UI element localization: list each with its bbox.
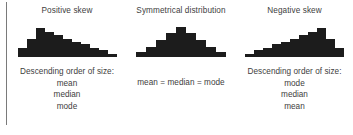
- histogram-bar: [45, 32, 54, 57]
- histogram-bar: [290, 39, 299, 57]
- caption-heading: Descending order of size:: [247, 66, 341, 78]
- panel-symmetrical-distribution: Symmetrical distribution mean = median =…: [126, 0, 236, 135]
- panel-title-negative-skew: Negative skew: [267, 6, 322, 16]
- caption-item-mean: mean: [284, 101, 304, 113]
- panel-positive-skew: Positive skew Descending order of size: …: [8, 0, 126, 135]
- caption-positive-skew: Descending order of size: mean median mo…: [20, 66, 114, 112]
- histogram-bar: [196, 40, 206, 57]
- caption-item-mode: mode: [57, 101, 77, 113]
- histogram-bars: [245, 28, 344, 57]
- panel-title-positive-skew: Positive skew: [42, 6, 93, 16]
- histogram-bar: [90, 48, 99, 57]
- caption-negative-skew: Descending order of size: mode median me…: [247, 66, 341, 112]
- left-border-rule: [6, 2, 7, 125]
- histogram-bar: [36, 28, 45, 57]
- histogram-bars: [18, 28, 117, 57]
- chart-negative-skew: [245, 25, 344, 57]
- histogram-bar: [245, 54, 254, 57]
- histogram-bar: [254, 50, 263, 57]
- caption-item-mean: mean: [57, 78, 77, 90]
- histogram-bar: [108, 54, 117, 57]
- histogram-bar: [156, 40, 166, 57]
- caption-item-median: median: [281, 89, 308, 101]
- histogram-bar: [186, 33, 196, 57]
- chart-symmetrical-distribution: [136, 25, 226, 57]
- statistics-skew-figure: Positive skew Descending order of size: …: [0, 0, 353, 135]
- histogram-bar: [335, 48, 344, 57]
- histogram-bar: [63, 39, 72, 57]
- histogram-bar: [176, 27, 186, 57]
- panel-row: Positive skew Descending order of size: …: [8, 0, 353, 135]
- histogram-bar: [81, 44, 90, 57]
- chart-positive-skew: [18, 25, 117, 57]
- histogram-bar: [317, 28, 326, 57]
- histogram-bar: [216, 52, 226, 57]
- histogram-bars: [136, 27, 226, 57]
- histogram-bar: [281, 42, 290, 57]
- histogram-bar: [272, 44, 281, 57]
- histogram-bar: [308, 32, 317, 57]
- caption-item-mode: mode: [284, 78, 304, 90]
- histogram-bar: [27, 39, 36, 57]
- caption-heading: Descending order of size:: [20, 66, 114, 78]
- panel-negative-skew: Negative skew Descending order of size: …: [236, 0, 353, 135]
- histogram-bar: [18, 48, 27, 57]
- histogram-bar: [146, 47, 156, 57]
- histogram-bar: [166, 33, 176, 57]
- histogram-bar: [326, 39, 335, 57]
- caption-symmetrical-distribution: mean = median = mode: [137, 66, 224, 89]
- caption-item-median: median: [54, 89, 81, 101]
- histogram-bar: [99, 50, 108, 57]
- histogram-bar: [136, 52, 146, 57]
- panel-title-symmetrical-distribution: Symmetrical distribution: [136, 6, 225, 16]
- histogram-bar: [72, 42, 81, 57]
- histogram-bar: [54, 35, 63, 57]
- histogram-bar: [206, 47, 216, 57]
- histogram-bar: [263, 48, 272, 57]
- histogram-bar: [299, 35, 308, 57]
- caption-heading: mean = median = mode: [137, 77, 224, 89]
